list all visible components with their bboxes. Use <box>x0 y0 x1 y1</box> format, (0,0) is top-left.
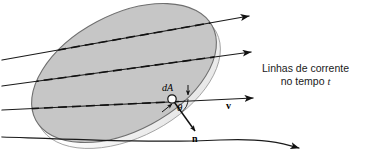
label-area-element: dA <box>162 82 173 93</box>
caption-line-1: Linhas de corrente <box>253 62 358 75</box>
streamlines-caption: Linhas de corrente no tempo t <box>253 62 358 88</box>
label-angle-theta: θ <box>177 101 182 113</box>
dA-marker <box>168 95 176 103</box>
label-velocity-vector: v <box>226 100 231 111</box>
surface-ellipse <box>8 0 239 151</box>
label-normal-vector: n <box>192 133 198 144</box>
caption-time-symbol: t <box>327 76 330 87</box>
caption-line-2-text: no tempo <box>281 75 328 87</box>
flux-diagram: dA θ n v Linhas de corrente no tempo t <box>0 0 365 151</box>
caption-line-2: no tempo t <box>253 75 358 88</box>
